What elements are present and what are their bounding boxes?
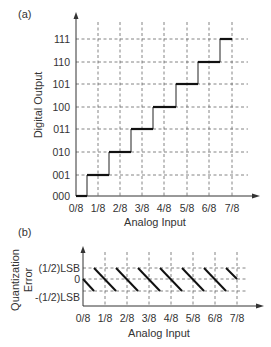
y-tick: 0: [74, 273, 80, 285]
y-tick: -(1/2)LSB: [35, 291, 80, 303]
panel-b-x-ticks: 0/8 1/8 2/8 3/8 4/8 5/8 6/8 7/8: [76, 312, 245, 324]
panel-a-y-ticks: 000 001 010 011 100 101 110 111: [52, 33, 70, 202]
x-tick: 7/8: [230, 312, 245, 324]
y-tick: 100: [52, 101, 70, 113]
x-tick: 2/8: [113, 202, 128, 214]
x-tick: 6/8: [208, 312, 223, 324]
x-axis-arrow-icon: [256, 304, 264, 309]
panel-b-label: (b): [18, 226, 31, 238]
x-tick: 0/8: [76, 312, 91, 324]
y-tick: 101: [52, 78, 70, 90]
y-axis-arrow-icon: [81, 246, 86, 253]
panel-a-x-label: Analog Input: [124, 216, 186, 228]
panel-a-y-label: Digital Output: [32, 72, 44, 139]
y-tick: 001: [52, 169, 70, 181]
panel-a-label: (a): [18, 8, 31, 20]
panel-a: (a): [18, 8, 260, 228]
y-tick: 011: [53, 123, 70, 135]
x-tick: 3/8: [142, 312, 157, 324]
x-tick: 7/8: [225, 202, 240, 214]
adc-figure: (a): [0, 0, 271, 347]
y-tick: 000: [52, 190, 70, 202]
x-tick: 2/8: [120, 312, 135, 324]
panel-b-y-label-line2: Error: [22, 267, 34, 292]
x-tick: 0/8: [69, 202, 84, 214]
panel-b-y-ticks: (1/2)LSB 0 -(1/2)LSB: [35, 262, 80, 303]
panel-b: (b): [9, 226, 264, 339]
y-axis-arrow-icon: [74, 12, 79, 19]
panel-a-x-ticks: 0/8 1/8 2/8 3/8 4/8 5/8 6/8 7/8: [69, 202, 240, 214]
x-tick: 1/8: [98, 312, 113, 324]
x-tick: 6/8: [202, 202, 217, 214]
x-tick: 5/8: [180, 202, 195, 214]
y-tick: 010: [52, 146, 70, 158]
x-axis-arrow-icon: [252, 194, 260, 199]
y-tick: 111: [54, 33, 70, 45]
panel-b-y-label-line1: Quantization: [9, 249, 21, 311]
x-tick: 4/8: [164, 312, 179, 324]
panel-b-x-label: Analog Input: [128, 327, 190, 339]
y-tick: 110: [53, 56, 70, 68]
x-tick: 3/8: [135, 202, 150, 214]
panel-a-vgrid: [98, 22, 232, 196]
x-tick: 4/8: [157, 202, 172, 214]
x-tick: 5/8: [186, 312, 201, 324]
x-tick: 1/8: [91, 202, 106, 214]
sawtooth-error: [83, 268, 237, 291]
